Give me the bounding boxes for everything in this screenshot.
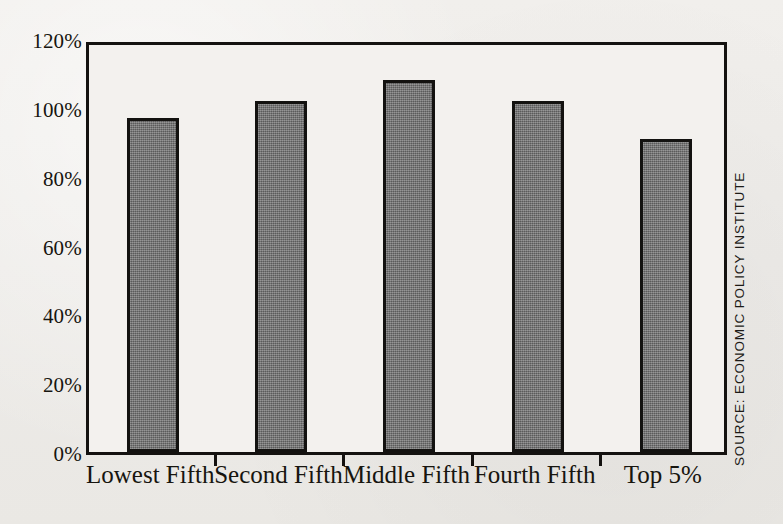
y-axis-tick-labels: 120%100%80%60%40%20%0% <box>0 0 82 524</box>
bar-slot <box>89 45 217 452</box>
y-axis-tick-label: 80% <box>0 169 82 190</box>
bar[interactable] <box>255 101 307 452</box>
bar-slot <box>345 45 473 452</box>
plot-area <box>86 42 727 455</box>
y-axis-tick-label: 120% <box>0 31 82 52</box>
x-axis-category-label: Middle Fifth <box>342 462 470 488</box>
bar[interactable] <box>640 139 692 452</box>
x-axis-category-label: Top 5% <box>599 462 727 488</box>
bar-series <box>89 45 724 452</box>
bar[interactable] <box>127 118 179 452</box>
y-axis-tick-label: 100% <box>0 100 82 121</box>
y-axis-tick-label: 20% <box>0 375 82 396</box>
y-axis-tick-label: 40% <box>0 306 82 327</box>
bar[interactable] <box>512 101 564 452</box>
y-axis-tick-label: 0% <box>0 444 82 465</box>
bar-slot <box>602 45 730 452</box>
bar-slot <box>474 45 602 452</box>
bar-slot <box>217 45 345 452</box>
y-axis-tick-label: 60% <box>0 238 82 259</box>
x-axis-category-label: Second Fifth <box>214 462 342 488</box>
x-axis-category-label: Fourth Fifth <box>471 462 599 488</box>
x-axis-category-label: Lowest Fifth <box>86 462 214 488</box>
bar[interactable] <box>383 80 435 452</box>
